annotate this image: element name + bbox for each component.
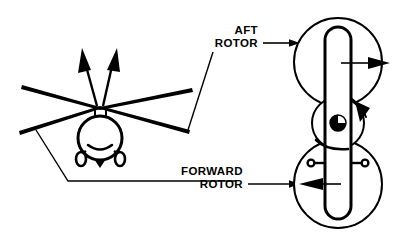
helicopter-group (19, 48, 193, 168)
landing-gear-right (115, 152, 125, 166)
rotor-identification-figure: AFT ROTOR FORWARD ROTOR (0, 0, 403, 236)
aft-rotor-label-line1: AFT (234, 24, 258, 36)
aft-rotor-label: AFT ROTOR (215, 24, 259, 49)
nose-triangle (94, 159, 106, 168)
rotor-discs-group (294, 18, 390, 228)
aft-rotor-label-line2: ROTOR (215, 37, 259, 49)
rotor-blade-upper-right (100, 88, 193, 110)
rotor-hub-symbol (330, 115, 346, 131)
rotor-blade-upper-left (21, 85, 100, 110)
forward-pointer-arrow (248, 180, 300, 188)
thrust-arrow-left (78, 48, 97, 106)
forward-rotor-label-line1: FORWARD (181, 165, 243, 177)
forward-rotor-label-line2: ROTOR (200, 178, 244, 190)
landing-gear-left (76, 152, 86, 166)
thrust-arrow-right (103, 48, 120, 106)
aft-pointer-arrow (263, 39, 300, 47)
forward-rotor-label: FORWARD ROTOR (181, 165, 243, 190)
diagram-canvas: AFT ROTOR FORWARD ROTOR (0, 0, 403, 236)
